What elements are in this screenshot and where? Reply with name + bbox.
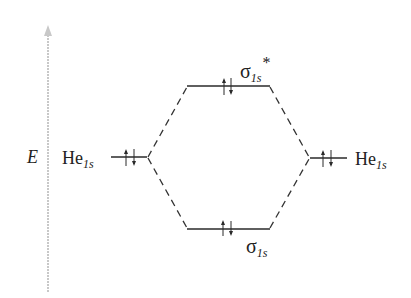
spin-down-arrowhead-icon (329, 162, 333, 167)
mo-diagram: E He1s He1s (0, 0, 411, 298)
spin-down-arrowhead-icon (229, 231, 233, 236)
atomic-orbital-left: He1s (62, 148, 147, 171)
spin-down-arrowhead-icon (132, 161, 136, 166)
connector-right-antibonding (270, 87, 309, 157)
bonding-electron-pair-icon (221, 220, 233, 236)
energy-axis-label: E (26, 147, 38, 167)
energy-axis-arrowhead-icon (44, 25, 52, 36)
spin-down-arrowhead-icon (229, 90, 233, 95)
bonding-label: σ1s (246, 235, 268, 260)
molecular-orbital-bonding: σ1s (187, 220, 270, 260)
molecular-orbital-antibonding: σ1s* (187, 54, 270, 95)
connector-right-bonding (270, 159, 309, 228)
antibonding-label: σ1s* (240, 54, 270, 85)
spin-up-arrowhead-icon (321, 150, 325, 155)
left-orbital-label: He1s (62, 148, 94, 171)
connector-left-antibonding (148, 87, 187, 157)
spin-up-arrowhead-icon (124, 149, 128, 154)
correlation-lines (148, 87, 309, 228)
spin-up-arrowhead-icon (222, 78, 226, 83)
energy-axis: E (26, 25, 52, 292)
connector-left-bonding (148, 158, 187, 228)
right-orbital-label: He1s (355, 149, 387, 172)
atomic-orbital-right: He1s (310, 149, 387, 172)
mo-diagram-svg: E He1s He1s (0, 0, 411, 298)
spin-up-arrowhead-icon (221, 220, 225, 225)
